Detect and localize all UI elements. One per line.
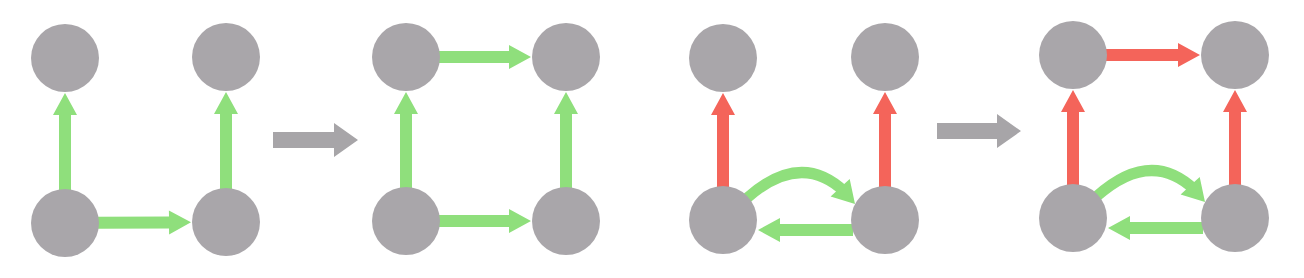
edge-bl-to-br-green-arrow-shaft [1097,170,1195,196]
edge-bl-to-br-green-arrow-shaft [747,172,845,198]
node-br [1201,184,1269,252]
node-br [192,188,260,256]
edge-tl-to-tr-green-arrow [438,45,531,69]
panel-1 [31,23,260,257]
node-tl [372,23,440,91]
edge-br-to-tr-red-arrow [873,92,897,188]
panel-2 [372,23,600,255]
node-bl [1039,184,1107,252]
node-tr [192,23,260,91]
panel-4 [1039,21,1269,252]
transition-1-arrow-icon [273,123,358,157]
edge-bl-to-br-green-arrow [438,209,531,233]
edge-bl-to-tl-red-arrow [711,93,735,188]
edge-tl-to-tr-red-arrow [1105,43,1200,67]
edge-br-to-tr-green-arrow [214,92,238,190]
node-bl [689,186,757,254]
edge-bl-to-tl-green-arrow [53,93,77,191]
node-bl [31,189,99,257]
edge-bl-to-tl-red-arrow [1061,90,1085,186]
transition-2-arrow-icon [937,114,1021,148]
node-tl [1039,21,1107,89]
node-br [532,187,600,255]
edge-br-to-bl-green-arrow [1108,216,1203,240]
node-tr [1201,21,1269,89]
edge-br-to-tr-green-arrow [554,92,578,189]
panel-3 [689,23,919,254]
edge-bl-to-tl-green-arrow [394,92,418,189]
edge-br-to-tr-red-arrow [1223,90,1247,186]
edge-bl-to-br-green-arrow [97,210,191,234]
node-tr [532,23,600,91]
node-tl [31,24,99,92]
node-tl [689,24,757,92]
node-br [851,186,919,254]
graph-transformation-diagram [0,0,1304,278]
node-bl [372,187,440,255]
edge-br-to-bl-green-arrow [758,218,853,242]
node-tr [851,23,919,91]
